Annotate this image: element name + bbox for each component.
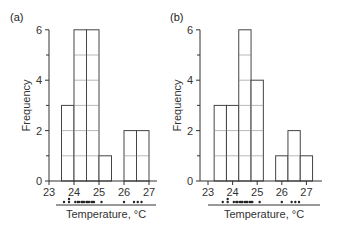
y-tick-label: 6 — [36, 24, 42, 36]
y-tick-label: 0 — [36, 175, 42, 187]
y-tick-label: 0 — [187, 175, 193, 187]
histogram-bar — [214, 105, 226, 181]
histogram-bar — [226, 105, 238, 181]
panel-label: (a) — [10, 11, 23, 23]
x-tick-label: 27 — [300, 186, 312, 198]
x-tick-label: 26 — [276, 186, 288, 198]
histogram-figure: (a)0246Frequency2324252627Temperature, °… — [0, 0, 338, 230]
y-tick-label: 4 — [187, 74, 193, 86]
histogram-bar — [124, 131, 137, 181]
y-tick-label: 2 — [187, 125, 193, 137]
x-tick-label: 23 — [202, 186, 214, 198]
rug-plot — [222, 198, 301, 203]
y-tick-label: 4 — [36, 74, 42, 86]
x-tick-label: 26 — [118, 186, 130, 198]
y-axis-title: Frequency — [20, 79, 32, 131]
histogram-bar — [99, 156, 112, 181]
histogram-bar — [239, 30, 251, 181]
histogram-bar — [300, 156, 312, 181]
y-tick-label: 6 — [187, 24, 193, 36]
histogram-panel-a: (a)0246Frequency2324252627Temperature, °… — [10, 11, 157, 220]
x-tick-label: 24 — [68, 186, 80, 198]
histogram-bar — [137, 131, 150, 181]
x-tick-label: 25 — [251, 186, 263, 198]
y-tick-label: 2 — [36, 125, 42, 137]
histogram-bar — [74, 30, 87, 181]
histogram-bar — [62, 105, 75, 181]
x-tick-label: 25 — [93, 186, 105, 198]
histogram-bar — [288, 131, 300, 181]
histogram-bar — [251, 80, 263, 181]
histogram-panel-b: (b)0246Frequency2324252627Temperature, °… — [170, 11, 322, 220]
y-axis-title: Frequency — [171, 79, 183, 131]
x-axis-title: Temperature, °C — [224, 208, 304, 220]
x-axis-title: Temperature, °C — [66, 208, 146, 220]
histogram-bar — [87, 30, 100, 181]
panel-label: (b) — [170, 11, 183, 23]
x-tick-label: 24 — [226, 186, 238, 198]
x-tick-label: 23 — [43, 186, 55, 198]
x-tick-label: 27 — [143, 186, 155, 198]
rug-plot — [63, 198, 143, 203]
histogram-bar — [276, 156, 288, 181]
